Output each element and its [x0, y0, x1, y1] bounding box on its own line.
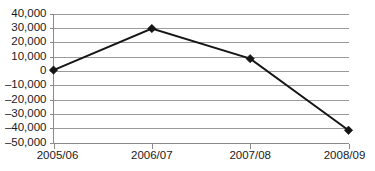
y-tick-label: 20,000: [11, 35, 46, 47]
y-tick-label: –30,000: [5, 107, 47, 119]
x-tick-label: 2005/06: [37, 149, 79, 161]
y-tick-label: –10,000: [5, 78, 47, 90]
y-tick-label: 0: [40, 64, 46, 76]
y-tick-label: 30,000: [11, 21, 46, 33]
y-tick-label: –20,000: [5, 93, 47, 105]
chart-canvas: 40,00030,00020,00010,0000–10,000–20,000–…: [0, 0, 375, 171]
line-chart: 40,00030,00020,00010,0000–10,000–20,000–…: [0, 0, 375, 171]
x-tick-label: 2007/08: [229, 149, 271, 161]
y-tick-label: –50,000: [5, 136, 47, 148]
y-tick-label: –40,000: [5, 121, 47, 133]
y-tick-label: 10,000: [11, 50, 46, 62]
y-tick-label: 40,000: [11, 7, 46, 19]
x-tick-label: 2006/07: [131, 149, 173, 161]
x-tick-label: 2008/09: [324, 149, 366, 161]
